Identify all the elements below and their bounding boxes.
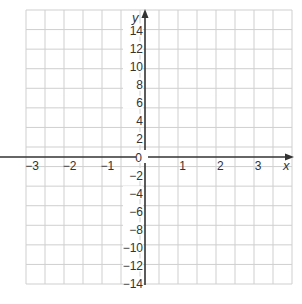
coordinate-grid: −3−2−10123 1412108642−2−4−6−8−10−12−14 x… — [0, 0, 302, 304]
x-tick-label: −2 — [63, 159, 77, 173]
x-axis-label: x — [282, 158, 290, 173]
y-tick-label: −2 — [129, 169, 143, 183]
y-tick-label: −8 — [129, 223, 143, 237]
x-tick-label: 2 — [217, 159, 224, 173]
y-tick-label: 6 — [136, 96, 143, 110]
y-axis-label: y — [131, 10, 140, 25]
y-tick-label: −14 — [123, 277, 144, 291]
y-tick-label: 10 — [130, 60, 144, 74]
y-tick-label: −12 — [123, 259, 144, 273]
y-tick-label: −6 — [129, 205, 143, 219]
x-tick-label: 0 — [135, 151, 142, 165]
y-tick-label: 4 — [136, 114, 143, 128]
x-tick-label: 1 — [179, 159, 186, 173]
y-tick-label: 12 — [130, 42, 144, 56]
y-tick-label: 2 — [136, 132, 143, 146]
y-tick-label: 14 — [130, 24, 144, 38]
y-tick-label: −10 — [123, 241, 144, 255]
x-tick-label: −1 — [100, 159, 114, 173]
x-tick-label: 3 — [255, 159, 262, 173]
grid-lines — [26, 10, 292, 284]
x-tick-labels: −3−2−10123 — [25, 150, 262, 173]
y-tick-label: −4 — [129, 187, 143, 201]
y-tick-label: 8 — [136, 78, 143, 92]
x-tick-label: −3 — [25, 159, 39, 173]
